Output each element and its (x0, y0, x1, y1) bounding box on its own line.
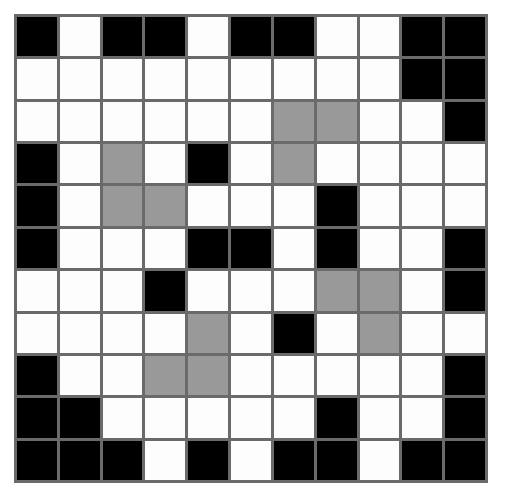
grid-cell-r4-c10 (402, 144, 442, 183)
grid-cell-r6-c3 (103, 229, 143, 268)
grid-cell-r6-c11 (445, 229, 485, 268)
grid-cell-r5-c9 (360, 186, 400, 225)
grid-cell-r3-c3 (103, 102, 143, 141)
grid-cell-r9-c9 (360, 356, 400, 395)
grid-cell-r1-c4 (145, 17, 185, 56)
grid-cell-r9-c3 (103, 356, 143, 395)
grid-cell-r2-c1 (17, 59, 57, 98)
grid-figure (14, 14, 488, 483)
grid-cell-r8-c1 (17, 314, 57, 353)
grid-cell-r7-c5 (188, 271, 228, 310)
grid-cell-r2-c11 (445, 59, 485, 98)
grid-cell-r6-c4 (145, 229, 185, 268)
grid-cell-r4-c1 (17, 144, 57, 183)
grid-cell-r8-c7 (274, 314, 314, 353)
grid-cell-r7-c4 (145, 271, 185, 310)
grid-cell-r5-c5 (188, 186, 228, 225)
grid-cell-r5-c2 (60, 186, 100, 225)
grid-cell-r2-c4 (145, 59, 185, 98)
grid-cell-r10-c5 (188, 398, 228, 437)
grid-cell-r10-c10 (402, 398, 442, 437)
grid-cell-r10-c11 (445, 398, 485, 437)
grid-cell-r7-c7 (274, 271, 314, 310)
grid-cell-r9-c6 (231, 356, 271, 395)
grid-cell-r1-c7 (274, 17, 314, 56)
grid-cell-r11-c7 (274, 441, 314, 480)
grid-cell-r1-c3 (103, 17, 143, 56)
grid-cell-r7-c6 (231, 271, 271, 310)
grid-cell-r9-c8 (317, 356, 357, 395)
grid-cell-r3-c2 (60, 102, 100, 141)
grid-cell-r5-c4 (145, 186, 185, 225)
grid-cell-r3-c1 (17, 102, 57, 141)
grid-cell-r10-c4 (145, 398, 185, 437)
grid-cell-r9-c11 (445, 356, 485, 395)
grid-cell-r11-c1 (17, 441, 57, 480)
grid-cell-r8-c2 (60, 314, 100, 353)
grid-cell-r9-c7 (274, 356, 314, 395)
grid-cell-r3-c8 (317, 102, 357, 141)
grid-cell-r4-c4 (145, 144, 185, 183)
grid-cell-r2-c7 (274, 59, 314, 98)
grid-cell-r7-c10 (402, 271, 442, 310)
grid-cell-r9-c10 (402, 356, 442, 395)
grid-cell-r3-c9 (360, 102, 400, 141)
pattern-grid (14, 14, 488, 483)
grid-cell-r2-c3 (103, 59, 143, 98)
grid-cell-r4-c8 (317, 144, 357, 183)
grid-cell-r10-c3 (103, 398, 143, 437)
grid-cell-r8-c9 (360, 314, 400, 353)
grid-cell-r1-c10 (402, 17, 442, 56)
grid-cell-r8-c8 (317, 314, 357, 353)
grid-cell-r11-c9 (360, 441, 400, 480)
grid-cell-r2-c5 (188, 59, 228, 98)
grid-cell-r9-c2 (60, 356, 100, 395)
grid-cell-r10-c8 (317, 398, 357, 437)
grid-cell-r10-c7 (274, 398, 314, 437)
grid-cell-r11-c11 (445, 441, 485, 480)
grid-cell-r6-c8 (317, 229, 357, 268)
grid-cell-r4-c9 (360, 144, 400, 183)
grid-cell-r10-c6 (231, 398, 271, 437)
grid-cell-r3-c4 (145, 102, 185, 141)
grid-cell-r5-c3 (103, 186, 143, 225)
grid-cell-r6-c5 (188, 229, 228, 268)
grid-cell-r7-c11 (445, 271, 485, 310)
grid-cell-r5-c6 (231, 186, 271, 225)
grid-cell-r2-c2 (60, 59, 100, 98)
grid-cell-r7-c9 (360, 271, 400, 310)
grid-cell-r4-c6 (231, 144, 271, 183)
grid-cell-r6-c9 (360, 229, 400, 268)
grid-cell-r9-c1 (17, 356, 57, 395)
grid-cell-r1-c6 (231, 17, 271, 56)
grid-cell-r8-c11 (445, 314, 485, 353)
grid-cell-r5-c7 (274, 186, 314, 225)
grid-cell-r1-c1 (17, 17, 57, 56)
grid-cell-r5-c1 (17, 186, 57, 225)
grid-cell-r2-c6 (231, 59, 271, 98)
grid-cell-r4-c7 (274, 144, 314, 183)
grid-cell-r5-c11 (445, 186, 485, 225)
grid-cell-r11-c5 (188, 441, 228, 480)
grid-cell-r11-c3 (103, 441, 143, 480)
grid-cell-r4-c2 (60, 144, 100, 183)
grid-cell-r1-c8 (317, 17, 357, 56)
grid-cell-r8-c6 (231, 314, 271, 353)
grid-cell-r3-c10 (402, 102, 442, 141)
grid-cell-r7-c1 (17, 271, 57, 310)
grid-cell-r3-c7 (274, 102, 314, 141)
grid-cell-r3-c6 (231, 102, 271, 141)
grid-cell-r11-c10 (402, 441, 442, 480)
grid-cell-r2-c10 (402, 59, 442, 98)
grid-cell-r2-c9 (360, 59, 400, 98)
grid-cell-r5-c8 (317, 186, 357, 225)
grid-cell-r1-c11 (445, 17, 485, 56)
grid-cell-r9-c4 (145, 356, 185, 395)
grid-cell-r4-c5 (188, 144, 228, 183)
grid-cell-r7-c2 (60, 271, 100, 310)
grid-cell-r8-c3 (103, 314, 143, 353)
grid-cell-r10-c9 (360, 398, 400, 437)
grid-cell-r9-c5 (188, 356, 228, 395)
grid-cell-r7-c8 (317, 271, 357, 310)
grid-cell-r2-c8 (317, 59, 357, 98)
